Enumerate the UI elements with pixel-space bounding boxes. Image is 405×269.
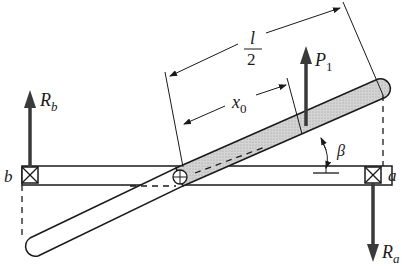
label-l: l: [250, 28, 255, 48]
label-beta: β: [336, 142, 345, 160]
label-ra: Ra: [381, 242, 400, 266]
support-a-icon: [365, 167, 381, 183]
label-2: 2: [247, 50, 256, 69]
label-support-b: b: [4, 167, 13, 186]
label-support-a: a: [388, 166, 397, 185]
label-rb: Rb: [39, 90, 58, 114]
pivot-icon: [173, 170, 187, 184]
diagram-canvas: l 2 x0 P1 β Rb Ra b a: [0, 0, 405, 269]
label-p1: P1: [314, 50, 333, 74]
label-x0: x0: [231, 92, 247, 116]
reaction-b-arrow: [24, 90, 36, 167]
support-b-icon: [22, 167, 38, 183]
reaction-a-arrow: [367, 183, 379, 262]
